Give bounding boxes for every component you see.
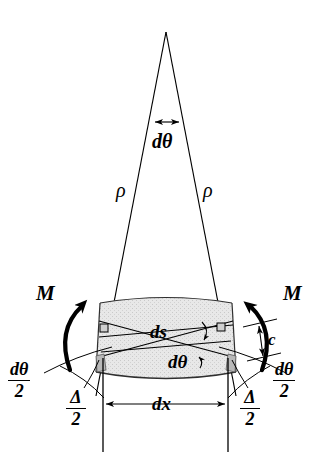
- moment-arrow-left: [65, 306, 82, 370]
- label-dtheta-half-right-denominator: 2: [278, 381, 291, 401]
- label-delta-half-left: Δ 2: [66, 388, 86, 429]
- label-ds: ds: [150, 322, 167, 341]
- label-delta-half-right-denominator: 2: [244, 409, 257, 429]
- label-rho-right: ρ: [203, 180, 213, 200]
- label-delta-half-left-numerator: Δ: [68, 388, 83, 408]
- c-dimension-arrow: [259, 326, 263, 356]
- delta-half-arc-left: [84, 360, 99, 388]
- label-dtheta-half-left-numerator: dθ: [8, 360, 30, 380]
- figure-beam-curvature: dθ ρ ρ M M ds dθ c dx dθ 2 dθ 2 Δ 2 Δ 2: [0, 0, 329, 469]
- label-moment-left: M: [36, 283, 55, 304]
- label-rho-left: ρ: [116, 180, 126, 200]
- label-dtheta-top: dθ: [152, 131, 172, 151]
- label-dtheta-half-right: dθ 2: [273, 360, 295, 401]
- label-delta-half-right-numerator: Δ: [242, 388, 257, 408]
- label-dtheta-half-left-denominator: 2: [13, 381, 26, 401]
- label-dtheta-half-right-numerator: dθ: [273, 360, 295, 380]
- right-angle-marker-left: [100, 324, 108, 332]
- label-dx: dx: [152, 394, 171, 413]
- right-angle-marker-right: [217, 323, 225, 331]
- label-dtheta-inner: dθ: [168, 352, 187, 371]
- label-delta-half-left-denominator: 2: [70, 409, 83, 429]
- label-c: c: [268, 331, 276, 348]
- label-dtheta-half-left: dθ 2: [8, 360, 30, 401]
- label-delta-half-right: Δ 2: [240, 388, 260, 429]
- label-moment-right: M: [283, 283, 302, 304]
- delta-half-arc-right: [232, 360, 248, 388]
